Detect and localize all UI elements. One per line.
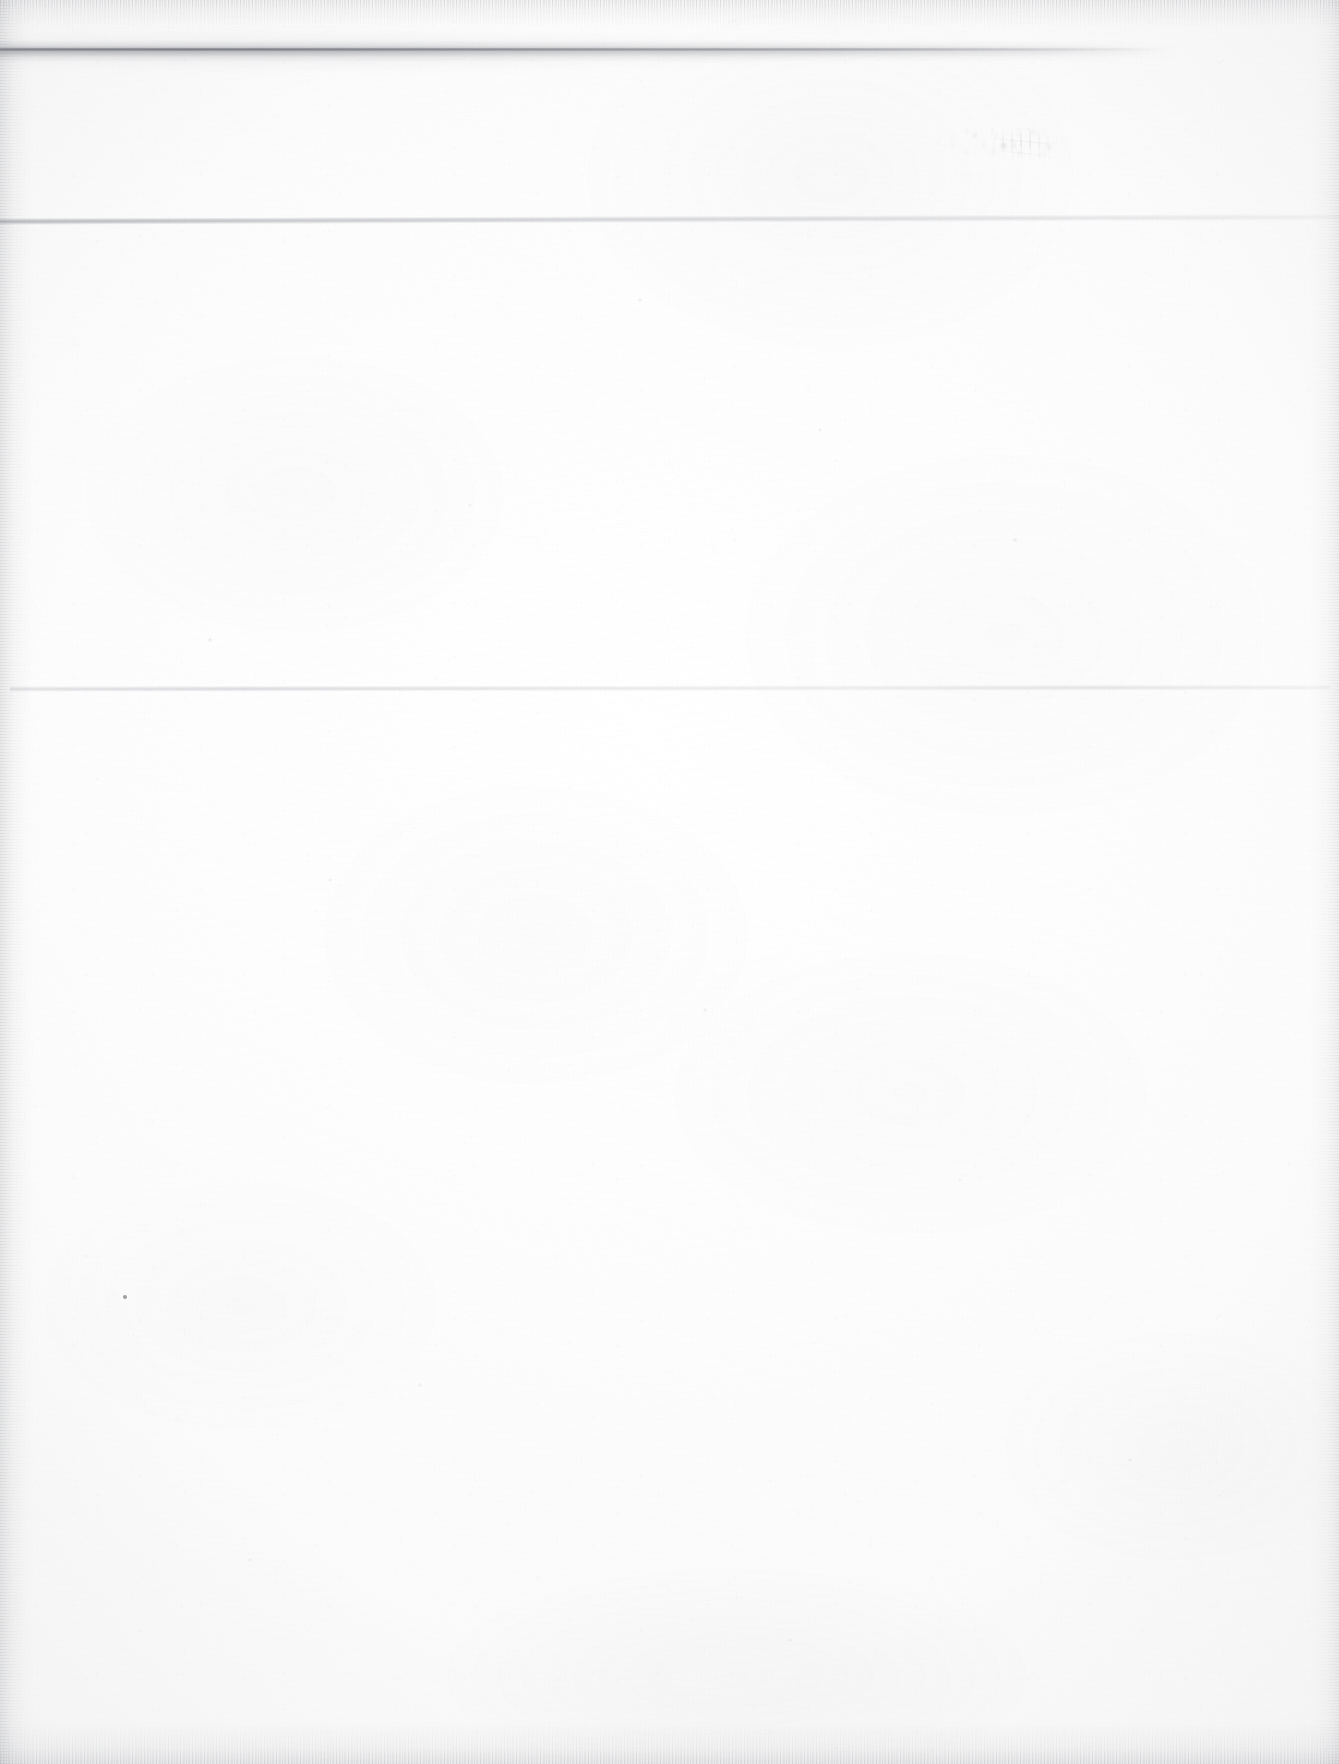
scan-edge-noise-v xyxy=(0,0,1339,1764)
scanned-page xyxy=(0,0,1339,1764)
